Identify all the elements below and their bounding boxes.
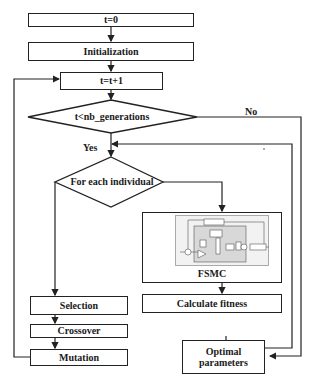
start-box: t=0 <box>28 13 194 27</box>
initialization-label: Initialization <box>83 46 138 58</box>
selection-box: Selection <box>30 296 128 315</box>
optimal-parameters-label: Optimal parameters <box>194 346 254 369</box>
fitness-label: Calculate fitness <box>177 298 247 310</box>
fsmc-block-diagram-image <box>175 215 269 266</box>
increment-label: t=t+1 <box>100 75 123 87</box>
start-label: t=0 <box>104 14 118 26</box>
fsmc-label: FSMC <box>198 268 226 280</box>
increment-box: t=t+1 <box>60 72 163 90</box>
yes-label: Yes <box>83 142 97 153</box>
loop-label: For each individual <box>62 176 162 187</box>
crossover-box: Crossover <box>30 324 128 338</box>
fsmc-schematic-icon <box>176 216 270 267</box>
no-label: No <box>245 106 257 117</box>
mutation-label: Mutation <box>59 352 99 364</box>
fitness-box: Calculate fitness <box>142 294 282 313</box>
crossover-label: Crossover <box>57 325 100 337</box>
initialization-box: Initialization <box>28 42 194 61</box>
optimal-parameters-box: Optimal parameters <box>182 340 265 374</box>
condition-label: t<nb_generations <box>60 111 164 122</box>
mutation-box: Mutation <box>30 349 128 366</box>
selection-label: Selection <box>60 300 98 312</box>
